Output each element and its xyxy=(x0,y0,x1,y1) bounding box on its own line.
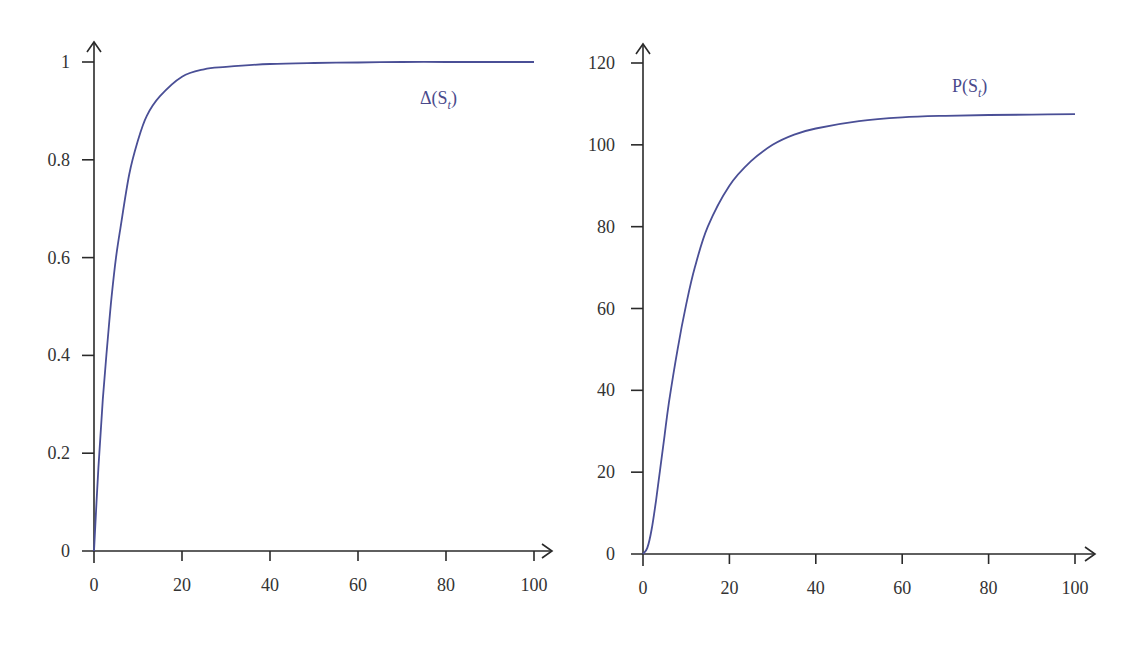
price-chart: 020406080100020406080100120P(St) xyxy=(588,44,1095,598)
series-label: P(St) xyxy=(952,76,987,100)
x-tick-label: 100 xyxy=(1062,578,1089,598)
y-tick-label: 1 xyxy=(61,52,70,72)
axes: 02040608010000.20.40.60.81 xyxy=(48,42,553,595)
x-tick-label: 100 xyxy=(521,575,548,595)
y-tick-label: 60 xyxy=(597,299,615,319)
y-tick-label: 20 xyxy=(597,462,615,482)
y-tick-label: 0 xyxy=(61,541,70,561)
y-tick-label: 40 xyxy=(597,380,615,400)
y-tick-label: 120 xyxy=(588,53,615,73)
y-tick-label: 0.6 xyxy=(48,248,71,268)
x-tick-label: 0 xyxy=(90,575,99,595)
series-line xyxy=(643,114,1075,554)
y-tick-label: 80 xyxy=(597,217,615,237)
axes: 020406080100020406080100120 xyxy=(588,44,1095,598)
x-tick-label: 80 xyxy=(980,578,998,598)
y-tick-label: 0.4 xyxy=(48,345,71,365)
x-tick-label: 0 xyxy=(639,578,648,598)
x-tick-label: 80 xyxy=(437,575,455,595)
series-label: Δ(St) xyxy=(420,88,457,112)
chart-canvas: 02040608010000.20.40.60.81Δ(St) 02040608… xyxy=(0,0,1125,647)
y-tick-label: 0.2 xyxy=(48,443,71,463)
x-tick-label: 20 xyxy=(173,575,191,595)
x-tick-label: 60 xyxy=(349,575,367,595)
x-tick-label: 40 xyxy=(261,575,279,595)
y-tick-label: 0.8 xyxy=(48,150,71,170)
x-tick-label: 60 xyxy=(893,578,911,598)
y-tick-label: 0 xyxy=(606,544,615,564)
x-tick-label: 40 xyxy=(807,578,825,598)
series-line xyxy=(94,62,534,551)
delta-chart: 02040608010000.20.40.60.81Δ(St) xyxy=(48,42,553,595)
y-tick-label: 100 xyxy=(588,135,615,155)
x-tick-label: 20 xyxy=(720,578,738,598)
